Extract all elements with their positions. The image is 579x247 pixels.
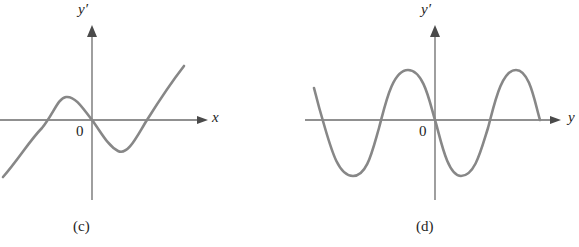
y-axis-d (430, 25, 440, 200)
graph-c-svg (0, 0, 290, 247)
origin-label-c: 0 (76, 124, 84, 139)
x-axis-c (0, 116, 208, 124)
origin-label-d: 0 (419, 124, 427, 139)
figure-panel-pair: y′ x 0 (c) y′ y 0 (d) (0, 0, 579, 247)
curve-c (3, 66, 184, 177)
curve-d (314, 70, 540, 176)
y-axis-label-d: y′ (421, 2, 431, 17)
x-axis-label-d: y (568, 110, 575, 125)
y-axis-label-c: y′ (78, 2, 88, 17)
y-axis-c (87, 25, 97, 200)
graph-panel-c: y′ x 0 (c) (0, 0, 290, 247)
graph-d-svg (290, 0, 579, 247)
caption-c: (c) (73, 219, 90, 234)
caption-d: (d) (416, 219, 434, 234)
x-axis-label-c: x (212, 110, 219, 125)
graph-panel-d: y′ y 0 (d) (290, 0, 579, 247)
